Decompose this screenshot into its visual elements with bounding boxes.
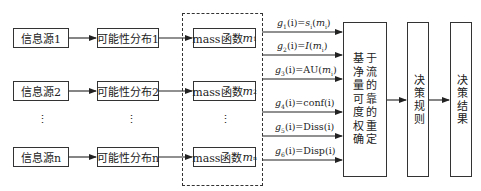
ellipsis-distributions: ⋮ [126, 117, 132, 123]
decision-result-box: 决策结果 [450, 22, 472, 177]
char: 基 [352, 52, 365, 66]
edge-label-g3: g3(i)=AU(mi) [275, 64, 337, 77]
mass-function-var-2: m [243, 85, 253, 98]
char: 净 [352, 66, 365, 80]
paren-close: ) [333, 64, 337, 75]
char: 靠 [365, 93, 378, 107]
function-name: Diss(i) [303, 121, 334, 132]
edge-label-g1: g1(i)=si(mi) [277, 17, 331, 30]
function-name: Disp(i) [303, 145, 335, 156]
source-label-1: 信息源1 [21, 30, 61, 46]
distribution-box-1: 可能性分布1 [97, 28, 159, 48]
decision-result-label: 决策结果 [455, 74, 468, 126]
mass-function-var-1: m [243, 32, 253, 45]
decision-rule-box: 决策规则 [407, 22, 429, 177]
char: 度 [352, 106, 365, 120]
g-argument: (i)= [285, 97, 303, 108]
mass-function-label-1: mass函数 [192, 30, 242, 46]
paren-close: ) [327, 17, 331, 28]
g-argument: (i)= [287, 17, 305, 28]
edge-label-g2: g2(i)=I(mi) [277, 40, 327, 53]
distribution-label-2: 可能性分布2 [97, 83, 159, 99]
char: 的 [365, 79, 378, 93]
ellipsis-sources: ⋮ [37, 117, 43, 123]
char: 可 [352, 93, 365, 107]
char: 确 [352, 133, 365, 147]
paren-close: ) [324, 40, 328, 51]
mass-function-box-n: mass函数mn [193, 147, 256, 167]
mass-function-box-2: mass函数m2 [193, 81, 256, 101]
distribution-label-n: 可能性分布n [97, 149, 159, 165]
source-box-1: 信息源1 [13, 28, 69, 48]
source-label-n: 信息源n [21, 149, 61, 165]
char: 流 [365, 66, 378, 80]
g-argument: (i)= [285, 121, 303, 132]
function-name: conf(i) [303, 97, 334, 108]
char: 量 [352, 79, 365, 93]
g-argument: (i)= [285, 64, 303, 75]
mass-function-box-1: mass函数m1 [193, 28, 256, 48]
char: 重 [365, 120, 378, 134]
m-symbol: m [313, 40, 322, 51]
g-argument: (i)= [285, 145, 303, 156]
mass-function-sub-1: 1 [253, 35, 257, 42]
source-label-2: 信息源2 [21, 83, 61, 99]
weight-determination-text: 基于 净流 量的 可靠 度的 权重 确定 [352, 52, 378, 147]
distribution-box-n: 可能性分布n [97, 147, 159, 167]
m-symbol: m [322, 64, 331, 75]
source-box-n: 信息源n [13, 147, 69, 167]
mass-function-var-n: m [242, 151, 252, 164]
char: 定 [365, 133, 378, 147]
mass-function-sub-2: 2 [253, 88, 257, 95]
char: 于 [365, 52, 378, 66]
mass-function-label-n: mass函数 [192, 149, 242, 165]
distribution-label-1: 可能性分布1 [97, 30, 159, 46]
source-box-2: 信息源2 [13, 81, 69, 101]
g-argument: (i)= [287, 40, 305, 51]
edge-label-g6: g6(i)=Disp(i) [275, 145, 335, 158]
mass-function-label-2: mass函数 [192, 83, 242, 99]
distribution-box-2: 可能性分布2 [97, 81, 159, 101]
edge-label-g4: g4(i)=conf(i) [275, 97, 334, 110]
weight-determination-box: 基于 净流 量的 可靠 度的 权重 确定 [343, 22, 387, 177]
edge-label-g5: g5(i)=Diss(i) [275, 121, 334, 134]
char: 的 [365, 106, 378, 120]
decision-rule-label: 决策规则 [412, 74, 425, 126]
m-symbol: m [316, 17, 325, 28]
mass-function-sub-n: n [253, 154, 257, 161]
ellipsis-mass-functions: ⋮ [220, 117, 226, 123]
char: 权 [352, 120, 365, 134]
function-name: AU [303, 64, 318, 75]
